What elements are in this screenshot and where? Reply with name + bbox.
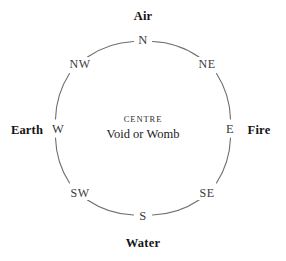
arc-sw-w	[56, 138, 70, 183]
arc-n-ne	[153, 42, 200, 58]
arc-nw-n	[88, 42, 134, 58]
centre-title: CENTRE	[78, 115, 208, 124]
arc-se-s	[153, 200, 200, 215]
arc-s-sw	[88, 200, 134, 215]
centre-text-block: CENTRE Void or Womb	[78, 115, 208, 143]
compass-diagram: Air Fire Water Earth N NE E SE S SW W NW…	[0, 0, 286, 261]
centre-subtitle: Void or Womb	[78, 127, 208, 143]
arc-ne-e	[217, 74, 231, 120]
arc-e-se	[217, 138, 231, 183]
arc-w-nw	[56, 74, 70, 120]
